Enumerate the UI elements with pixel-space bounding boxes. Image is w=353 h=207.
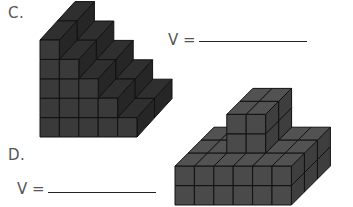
figure-d-base-tower xyxy=(175,88,330,205)
cube-figures xyxy=(0,0,353,207)
figure-c-staircase xyxy=(40,2,172,137)
